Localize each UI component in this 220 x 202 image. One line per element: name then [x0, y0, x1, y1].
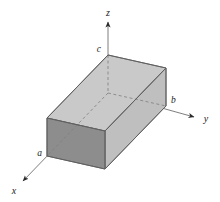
- z-axis-label: z: [105, 7, 110, 18]
- figure-container: z y x a b c: [0, 0, 220, 202]
- y-axis-label: y: [203, 113, 209, 124]
- x-axis-label: x: [11, 185, 17, 196]
- vertex-label-a: a: [37, 148, 42, 158]
- box-diagram-svg: z y x a b c: [0, 0, 220, 202]
- vertex-label-b: b: [171, 95, 176, 105]
